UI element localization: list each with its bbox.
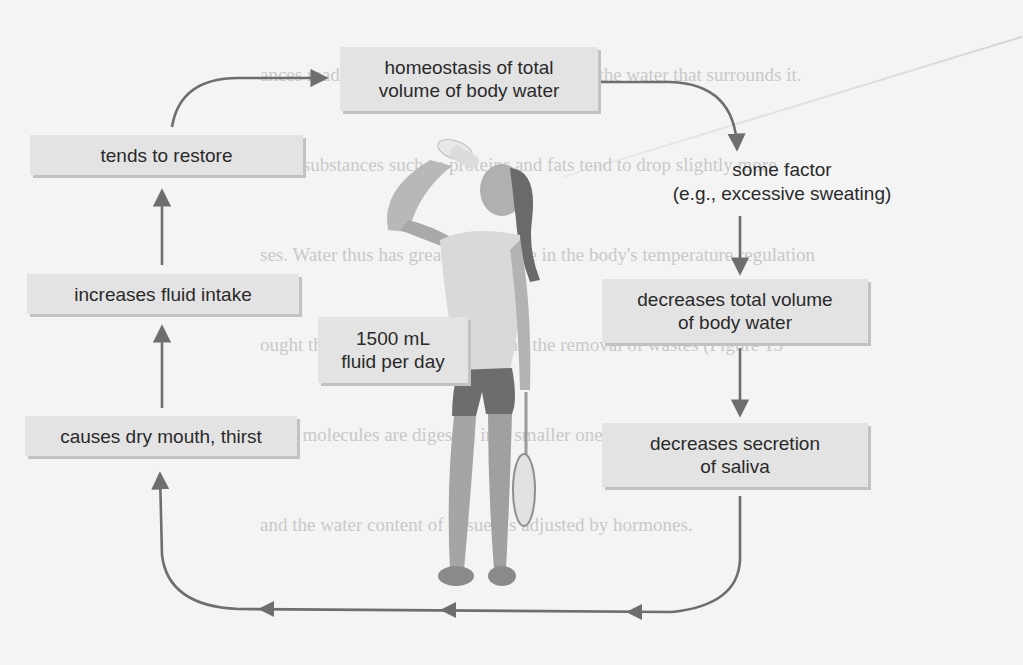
node-dry-mouth-label: causes dry mouth, thirst [60, 425, 262, 448]
node-some-factor: some factor (e.g., excessive sweating) [662, 158, 902, 206]
intake-line2: fluid per day [341, 350, 445, 373]
node-increases-fluid-intake: increases fluid intake [27, 274, 299, 314]
node-some-factor-line2: (e.g., excessive sweating) [662, 182, 902, 206]
intake-line1: 1500 mL [356, 327, 430, 350]
node-homeostasis-line2: volume of body water [379, 79, 560, 102]
node-dry-mouth-thirst: causes dry mouth, thirst [25, 416, 297, 456]
node-tends-to-restore: tends to restore [30, 135, 303, 175]
node-decreases-saliva: decreases secretion of saliva [602, 423, 868, 487]
node-decreases-volume-line2: of body water [678, 311, 792, 334]
node-homeostasis: homeostasis of total volume of body wate… [340, 47, 598, 111]
arrow-homeostasis-to-factor [600, 82, 737, 148]
node-decreases-saliva-line1: decreases secretion [650, 432, 820, 455]
node-fluid-intake-label: increases fluid intake [74, 283, 251, 306]
tennis-racket-icon [513, 454, 535, 526]
arrowhead-bottom-1 [626, 604, 642, 620]
node-decreases-saliva-line2: of saliva [700, 455, 770, 478]
node-daily-intake-1500ml: 1500 mL fluid per day [318, 317, 468, 383]
node-some-factor-line1: some factor [662, 158, 902, 182]
arrow-restore-to-homeostasis [172, 78, 325, 127]
node-homeostasis-line1: homeostasis of total [385, 56, 554, 79]
arrowhead-bottom-3 [258, 601, 274, 617]
node-decreases-volume-line1: decreases total volume [637, 288, 832, 311]
node-decreases-total-volume: decreases total volume of body water [602, 279, 868, 343]
node-restore-label: tends to restore [100, 144, 232, 167]
